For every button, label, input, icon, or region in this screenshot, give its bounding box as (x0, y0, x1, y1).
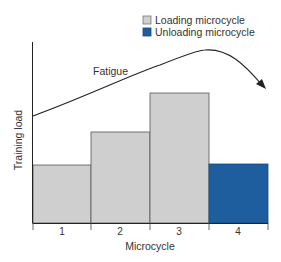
bar-microcycle-3 (150, 93, 209, 223)
legend-label-loading: Loading microcycle (155, 14, 245, 26)
fatigue-label: Fatigue (93, 65, 128, 77)
x-axis-label: Microcycle (125, 240, 175, 252)
bar-microcycle-1 (33, 165, 91, 223)
x-tick-label-1: 1 (59, 226, 65, 237)
x-tick-label-4: 4 (235, 226, 241, 237)
y-axis-label: Training load (12, 110, 24, 170)
legend-swatch-loading (143, 16, 151, 24)
legend-label-unloading: Unloading microcycle (155, 26, 255, 38)
fatigue-curve (33, 50, 262, 116)
x-tick-label-3: 3 (176, 226, 182, 237)
x-tick-label-2: 2 (117, 226, 123, 237)
x-ticks (33, 223, 268, 230)
bar-microcycle-4 (209, 164, 268, 223)
bar-microcycle-2 (91, 132, 150, 223)
chart: Loading microcycle Unloading microcycle … (0, 0, 281, 262)
legend-swatch-unloading (143, 28, 151, 36)
